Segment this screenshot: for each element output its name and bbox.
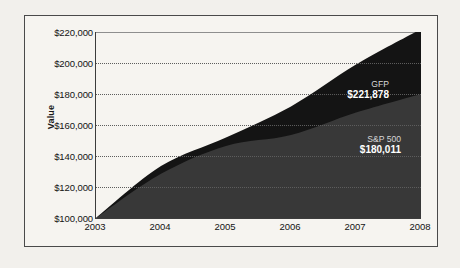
gridline	[96, 187, 421, 188]
series-annotation-gfp-value: $221,878	[347, 89, 389, 101]
plot-area	[95, 32, 421, 219]
x-axis-tick-label: 2006	[279, 221, 300, 232]
y-axis-tick-label: $200,000	[39, 58, 93, 69]
y-axis-tick-label: $140,000	[39, 151, 93, 162]
y-axis-tick-label: $220,000	[39, 27, 93, 38]
y-axis-tick-labels: $100,000$120,000$140,000$160,000$180,000…	[39, 16, 93, 246]
x-axis-tick-label: 2008	[409, 221, 430, 232]
x-axis-tick-labels: 200320042005200620072008	[95, 221, 420, 237]
y-axis-tick-label: $180,000	[39, 89, 93, 100]
x-axis-tick-label: 2003	[84, 221, 105, 232]
x-axis-tick-label: 2007	[344, 221, 365, 232]
y-axis-tick-label: $160,000	[39, 120, 93, 131]
x-axis-tick-label: 2004	[149, 221, 170, 232]
chart-frame: Value $100,000$120,000$140,000$160,000$1…	[24, 15, 438, 247]
x-axis-tick-label: 2005	[214, 221, 235, 232]
gridline	[96, 125, 421, 126]
y-axis-tick-label: $120,000	[39, 182, 93, 193]
series-annotation-gfp: GFP $221,878	[347, 79, 389, 101]
gridline	[96, 63, 421, 64]
gridline	[96, 156, 421, 157]
series-annotation-sp500: S&P 500 $180,011	[360, 134, 401, 156]
series-annotation-sp500-name: S&P 500	[360, 134, 401, 144]
series-annotation-gfp-name: GFP	[347, 79, 389, 89]
series-annotation-sp500-value: $180,011	[360, 144, 401, 156]
